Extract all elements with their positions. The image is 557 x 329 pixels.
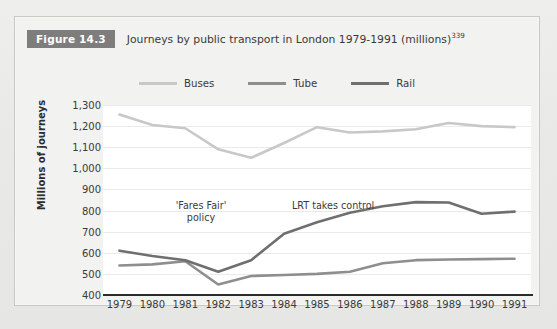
- y-tick-1100: 1,100: [72, 142, 101, 153]
- series-line-tube: [119, 259, 514, 285]
- legend-swatch-rail: [351, 82, 389, 85]
- annotation-lrt-line1: LRT takes control: [292, 200, 374, 212]
- legend-swatch-buses: [139, 82, 177, 85]
- x-tick-1984: 1984: [271, 299, 296, 310]
- x-tick-1988: 1988: [403, 299, 428, 310]
- legend-swatch-tube: [248, 82, 286, 85]
- y-tick-500: 500: [82, 268, 101, 279]
- legend-item-rail: Rail: [351, 78, 415, 89]
- figure-caption-text: Journeys by public transport in London 1…: [127, 33, 451, 46]
- y-tick-400: 400: [82, 290, 101, 301]
- chart-legend: BusesTubeRail: [15, 75, 539, 91]
- y-tick-1000: 1,000: [72, 163, 101, 174]
- x-tick-1989: 1989: [436, 299, 461, 310]
- y-tick-800: 800: [82, 205, 101, 216]
- figure-caption: Journeys by public transport in London 1…: [127, 31, 465, 46]
- figure-card: Figure 14.3 Journeys by public transport…: [14, 16, 540, 306]
- annotation-fares-fair-line1: 'Fares Fair': [176, 200, 227, 212]
- x-axis-ticks: 1979198019811982198319841985198619871988…: [103, 299, 531, 315]
- annotation-fares-fair-line2: policy: [176, 212, 227, 224]
- legend-label-tube: Tube: [293, 78, 317, 89]
- y-axis-title: Millions of journeys: [36, 100, 47, 211]
- y-axis-ticks: 4005006007008009001,0001,1001,2001,300: [55, 105, 101, 295]
- x-tick-1991: 1991: [502, 299, 527, 310]
- y-tick-1200: 1,200: [72, 121, 101, 132]
- figure-number-badge: Figure 14.3: [27, 30, 115, 48]
- x-tick-1980: 1980: [140, 299, 165, 310]
- x-tick-1987: 1987: [370, 299, 395, 310]
- x-tick-1985: 1985: [304, 299, 329, 310]
- x-tick-1979: 1979: [107, 299, 132, 310]
- annotation-fares-fair: 'Fares Fair' policy: [176, 200, 227, 224]
- x-tick-1983: 1983: [238, 299, 263, 310]
- y-tick-900: 900: [82, 184, 101, 195]
- legend-item-tube: Tube: [248, 78, 317, 89]
- y-tick-700: 700: [82, 226, 101, 237]
- legend-label-buses: Buses: [184, 78, 214, 89]
- series-line-buses: [119, 115, 514, 158]
- figure-caption-row: Figure 14.3 Journeys by public transport…: [27, 29, 465, 48]
- annotation-lrt: LRT takes control: [292, 200, 374, 212]
- figure-caption-superscript: 339: [451, 31, 465, 40]
- legend-item-buses: Buses: [139, 78, 214, 89]
- x-tick-1990: 1990: [469, 299, 494, 310]
- x-axis-baseline: [103, 294, 533, 296]
- legend-label-rail: Rail: [396, 78, 415, 89]
- y-tick-1300: 1,300: [72, 100, 101, 111]
- x-tick-1982: 1982: [205, 299, 230, 310]
- x-tick-1986: 1986: [337, 299, 362, 310]
- figure-page: Figure 14.3 Journeys by public transport…: [0, 0, 557, 329]
- x-tick-1981: 1981: [173, 299, 198, 310]
- y-tick-600: 600: [82, 247, 101, 258]
